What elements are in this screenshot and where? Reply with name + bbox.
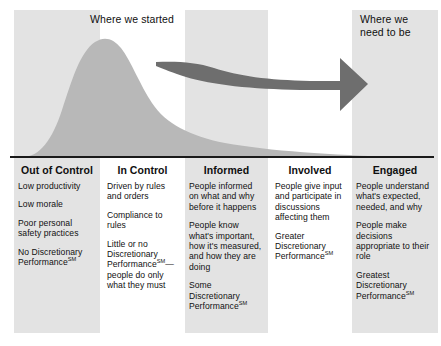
stage-items: People understand what's expected, neede… xyxy=(356,181,434,301)
stage-item: No Discretionary PerformanceSM xyxy=(18,247,96,268)
engagement-continuum-diagram: Where we started Where we need to be Out… xyxy=(0,0,441,346)
stage-item: Some Discretionary PerformanceSM xyxy=(189,280,264,311)
stage-title: In Control xyxy=(107,164,178,176)
progress-arrow-shape xyxy=(156,58,368,111)
service-mark: SM xyxy=(406,290,415,296)
stage-column-involved: Involved People give input and participa… xyxy=(271,160,349,333)
stage-item: People make decisions appropriate to the… xyxy=(356,220,434,262)
stage-items: Low productivityLow moralePoor personal … xyxy=(18,181,96,267)
stage-column-engaged: Engaged People understand what's expecte… xyxy=(352,160,438,333)
service-mark: SM xyxy=(68,256,77,262)
stage-column-in-control: In Control Driven by rules and ordersCom… xyxy=(103,160,182,333)
service-mark: SM xyxy=(157,259,166,265)
stage-item: People give input and participate in dis… xyxy=(275,181,345,223)
callout-where-we-started: Where we started xyxy=(62,13,202,26)
stage-title: Informed xyxy=(189,164,264,176)
stage-item: Driven by rules and orders xyxy=(107,181,178,202)
stage-title: Out of Control xyxy=(18,164,96,176)
stage-items: People informed on what and why before i… xyxy=(189,181,264,311)
stage-item: Low morale xyxy=(18,199,96,209)
stage-item: People understand what's expected, neede… xyxy=(356,181,434,212)
stage-items: Driven by rules and ordersCompliance to … xyxy=(107,181,178,291)
stage-item: Poor personal safety practices xyxy=(18,218,96,239)
stage-title: Involved xyxy=(275,164,345,176)
stage-column-out-of-control: Out of Control Low productivityLow moral… xyxy=(14,160,100,333)
stage-item: Compliance to rules xyxy=(107,210,178,231)
stage-items: People give input and participate in dis… xyxy=(275,181,345,262)
stage-columns: Out of Control Low productivityLow moral… xyxy=(0,160,441,346)
service-mark: SM xyxy=(239,300,248,306)
stage-item: Little or no Discretionary PerformanceSM… xyxy=(107,239,178,291)
baseline-rule xyxy=(10,156,434,158)
stage-item: People informed on what and why before i… xyxy=(189,181,264,212)
stage-item: Greater Discretionary PerformanceSM xyxy=(275,231,345,262)
callout-where-we-need-to-be: Where we need to be xyxy=(360,13,438,38)
service-mark: SM xyxy=(325,251,334,257)
stage-column-informed: Informed People informed on what and why… xyxy=(185,160,268,333)
stage-item: People know what's important, how it's m… xyxy=(189,220,264,272)
stage-item: Low productivity xyxy=(18,181,96,191)
stage-item: Greatest Discretionary PerformanceSM xyxy=(356,270,434,301)
stage-title: Engaged xyxy=(356,164,434,176)
